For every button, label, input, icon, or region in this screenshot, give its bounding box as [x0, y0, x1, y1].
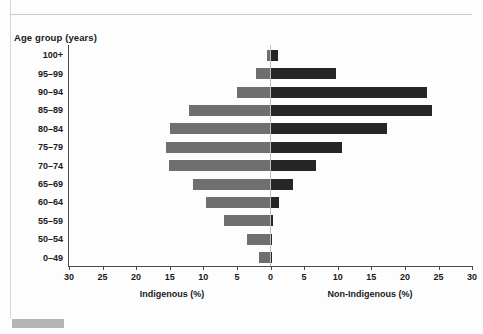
bar-indigenous: [224, 215, 270, 226]
bar-non-indigenous: [271, 215, 274, 226]
bar-non-indigenous: [271, 50, 278, 61]
y-axis-category-label: 70–74: [38, 161, 63, 171]
y-axis-tick-labels: 100+95–9990–9485–8980–8475–7970–7465–696…: [0, 0, 63, 310]
x-axis-tick: [136, 266, 137, 270]
bar-non-indigenous: [271, 252, 272, 263]
population-pyramid-chart: Age group (years) 100+95–9990–9485–8980–…: [0, 0, 483, 310]
bar-indigenous: [170, 123, 271, 134]
x-axis-tick: [203, 266, 204, 270]
x-axis-tick-label: 20: [131, 272, 141, 282]
bar-indigenous: [237, 87, 271, 98]
bar-non-indigenous: [271, 234, 272, 245]
x-axis-label-right: Non-Indigenous (%): [328, 289, 413, 299]
x-axis-tick: [271, 266, 272, 270]
bar-indigenous: [169, 160, 270, 171]
x-axis-tick: [170, 266, 171, 270]
y-axis-category-label: 65–69: [38, 179, 63, 189]
x-axis-tick-label: 15: [165, 272, 175, 282]
x-axis-tick-label: 15: [366, 272, 376, 282]
bar-indigenous: [259, 252, 270, 263]
x-axis-tick: [472, 266, 473, 270]
y-axis-category-label: 100+: [43, 50, 63, 60]
x-axis-tick: [338, 266, 339, 270]
x-axis-tick-label: 10: [333, 272, 343, 282]
bar-indigenous: [247, 234, 271, 245]
page-canvas: Age group (years) 100+95–9990–9485–8980–…: [0, 0, 483, 334]
x-axis-tick: [304, 266, 305, 270]
bar-indigenous: [206, 197, 271, 208]
caption-swatch: [12, 319, 64, 328]
x-axis-tick-label: 30: [467, 272, 477, 282]
x-axis-tick-label: 10: [198, 272, 208, 282]
y-axis-category-label: 75–79: [38, 142, 63, 152]
y-axis-category-label: 95–99: [38, 69, 63, 79]
bar-non-indigenous: [271, 197, 279, 208]
x-axis-tick-label: 0: [268, 272, 273, 282]
x-axis-tick-label: 5: [302, 272, 307, 282]
y-axis-line: [68, 45, 69, 266]
x-axis-tick: [69, 266, 70, 270]
x-axis-tick-label: 25: [97, 272, 107, 282]
x-axis-tick: [103, 266, 104, 270]
x-axis-tick-label: 25: [433, 272, 443, 282]
figure-caption: [0, 316, 483, 334]
bar-indigenous: [189, 105, 270, 116]
bar-indigenous: [193, 179, 271, 190]
x-axis-tick-label: 30: [64, 272, 74, 282]
bar-non-indigenous: [271, 68, 337, 79]
bar-non-indigenous: [271, 123, 388, 134]
x-axis-tick: [237, 266, 238, 270]
bar-indigenous: [256, 68, 271, 79]
bar-indigenous: [166, 142, 270, 153]
bar-non-indigenous: [271, 160, 317, 171]
y-axis-category-label: 0–49: [43, 253, 63, 263]
bar-non-indigenous: [271, 179, 294, 190]
x-axis-tick: [439, 266, 440, 270]
bar-non-indigenous: [271, 142, 342, 153]
y-axis-category-label: 80–84: [38, 124, 63, 134]
x-axis-tick-label: 5: [234, 272, 239, 282]
bar-non-indigenous: [271, 105, 432, 116]
x-axis-tick-label: 20: [400, 272, 410, 282]
y-axis-category-label: 50–54: [38, 234, 63, 244]
y-axis-category-label: 55–59: [38, 216, 63, 226]
y-axis-category-label: 90–94: [38, 87, 63, 97]
y-axis-category-label: 85–89: [38, 105, 63, 115]
x-axis-label-left: Indigenous (%): [140, 289, 205, 299]
bar-non-indigenous: [271, 87, 428, 98]
x-axis-tick: [405, 266, 406, 270]
x-axis-tick: [371, 266, 372, 270]
y-axis-category-label: 60–64: [38, 197, 63, 207]
